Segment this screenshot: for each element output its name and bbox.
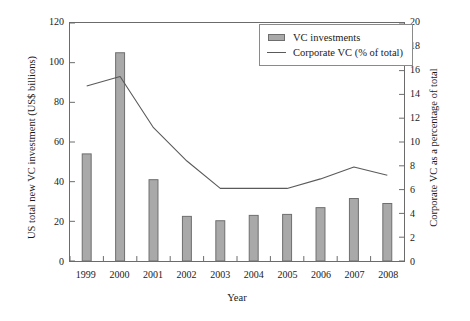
- bar: [283, 214, 292, 261]
- bar: [249, 215, 258, 261]
- bar: [349, 199, 358, 261]
- x-axis-tick-label: 2003: [210, 270, 230, 280]
- bar: [82, 154, 91, 261]
- x-axis-tick-label: 2001: [143, 270, 163, 280]
- x-axis-title: Year: [69, 292, 405, 303]
- line-series-corporate-vc: [87, 77, 388, 189]
- y-axis-left-title: US total new VC investment (US$ billions…: [26, 33, 37, 263]
- x-axis-tick-label: 2008: [378, 270, 398, 280]
- x-axis-tick-label: 2002: [177, 270, 197, 280]
- bar: [182, 216, 191, 261]
- legend-item-corporate-vc: Corporate VC (% of total): [267, 45, 403, 60]
- vc-investment-chart: 020406080100120 02468101214161820 199920…: [0, 0, 470, 321]
- bar-swatch-icon: [267, 31, 286, 45]
- x-axis-tick-label: 2007: [345, 270, 365, 280]
- y-axis-left-tick-marks: [70, 23, 75, 261]
- bar: [149, 180, 158, 261]
- legend-item-vc-investments: VC investments: [267, 30, 403, 45]
- x-axis-tick-label: 2005: [277, 270, 297, 280]
- x-axis-tick-label: 1999: [76, 270, 96, 280]
- legend: VC investments Corporate VC (% of total): [259, 24, 413, 66]
- y-axis-right-title: Corporate VC as a percentage of total: [428, 33, 439, 263]
- bar: [216, 221, 225, 261]
- bar: [316, 208, 325, 261]
- legend-label-corporate-vc: Corporate VC (% of total): [293, 47, 403, 58]
- bar-series-vc-investments: [82, 53, 392, 261]
- x-axis-tick-label: 2006: [311, 270, 331, 280]
- bar: [383, 203, 392, 261]
- x-axis-tick-label: 2000: [109, 270, 129, 280]
- legend-label-vc-investments: VC investments: [293, 32, 360, 43]
- bar: [116, 53, 125, 261]
- line-swatch-icon: [267, 46, 286, 60]
- x-axis-tick-label: 2004: [244, 270, 264, 280]
